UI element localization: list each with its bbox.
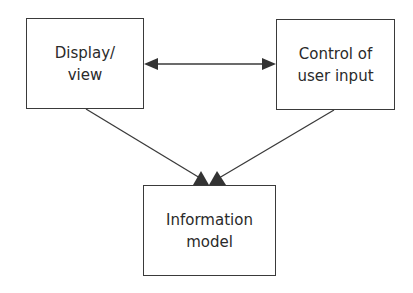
arrowhead-up-icon bbox=[209, 171, 226, 185]
display-view-box: Display/ view bbox=[26, 18, 144, 109]
box-label: Display/ bbox=[55, 42, 115, 64]
control-user-input-box: Control of user input bbox=[276, 19, 395, 110]
box-label: model bbox=[166, 231, 253, 253]
arrowhead-right-icon bbox=[262, 58, 276, 70]
arrowhead-up-icon bbox=[193, 171, 209, 185]
box-label: view bbox=[55, 64, 115, 86]
bidirectional-arrow bbox=[144, 58, 276, 70]
information-model-box: Information model bbox=[143, 185, 276, 276]
box-label: user input bbox=[297, 65, 373, 87]
control-to-model-arrow bbox=[209, 110, 334, 185]
box-label: Control of bbox=[297, 43, 373, 65]
box-label: Information bbox=[166, 209, 253, 231]
diagram-canvas: Display/ view Control of user input Info… bbox=[0, 0, 413, 293]
arrowhead-left-icon bbox=[144, 58, 158, 70]
display-to-model-arrow bbox=[86, 109, 209, 185]
